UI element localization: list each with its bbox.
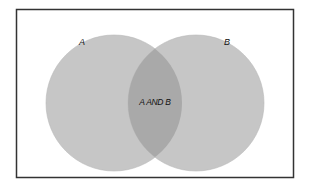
set-a-label: A <box>78 37 85 47</box>
venn-diagram: A B A AND B <box>0 0 310 187</box>
intersection-label: A AND B <box>138 97 171 107</box>
set-b-label: B <box>224 37 230 47</box>
